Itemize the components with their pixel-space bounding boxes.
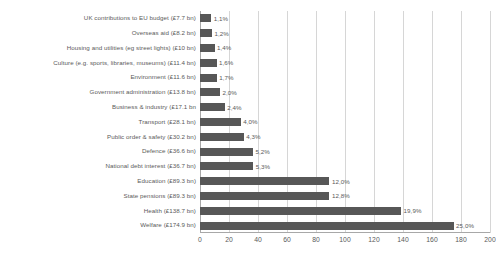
x-tick-label: 80 bbox=[312, 236, 320, 243]
chart-row: Public order & safety (£30.2 bn)4,3% bbox=[0, 129, 490, 144]
x-axis-tick-labels: 020406080100120140160180200 bbox=[200, 236, 490, 248]
category-label: National debt interest (£36.7 bn) bbox=[0, 163, 200, 170]
category-label: Defence (£36.6 bn) bbox=[0, 148, 200, 155]
bar-value-label: 12,8% bbox=[332, 192, 350, 199]
category-label: Overseas aid (£8.2 bn) bbox=[0, 30, 200, 37]
chart-row: National debt interest (£36.7 bn)5,3% bbox=[0, 159, 490, 174]
bar[interactable] bbox=[200, 192, 329, 200]
bar[interactable] bbox=[200, 59, 217, 67]
bar-cell: 12,8% bbox=[200, 189, 490, 204]
category-label: Business & industry (£17.1 bn bbox=[0, 104, 200, 111]
bar-cell: 1,6% bbox=[200, 55, 490, 70]
category-label: Culture (e.g. sports, libraries, museums… bbox=[0, 60, 200, 67]
bar-cell: 1,7% bbox=[200, 70, 490, 85]
bar-cell: 5,3% bbox=[200, 159, 490, 174]
x-tick-label: 160 bbox=[426, 236, 437, 243]
bar-cell: 12,0% bbox=[200, 174, 490, 189]
category-label: UK contributions to EU budget (£7.7 bn) bbox=[0, 15, 200, 22]
bar-value-label: 2,0% bbox=[223, 89, 237, 96]
bar[interactable] bbox=[200, 207, 401, 215]
x-tick-label: 60 bbox=[283, 236, 291, 243]
bar-cell: 4,3% bbox=[200, 129, 490, 144]
bar-cell: 4,0% bbox=[200, 115, 490, 130]
bar-value-label: 4,3% bbox=[246, 133, 260, 140]
bar-cell: 5,2% bbox=[200, 144, 490, 159]
x-tick-label: 180 bbox=[455, 236, 466, 243]
chart-row: Culture (e.g. sports, libraries, museums… bbox=[0, 55, 490, 70]
category-label: Health (£138.7 bn) bbox=[0, 208, 200, 215]
x-tick-label: 100 bbox=[339, 236, 350, 243]
bar-cell: 19,9% bbox=[200, 203, 490, 218]
bar[interactable] bbox=[200, 74, 217, 82]
bar-value-label: 1,1% bbox=[214, 15, 228, 22]
bar-cell: 1,1% bbox=[200, 11, 490, 26]
chart-rows: UK contributions to EU budget (£7.7 bn)1… bbox=[0, 11, 490, 233]
category-label: State pensions (£89.3 bn) bbox=[0, 193, 200, 200]
chart-row: Defence (£36.6 bn)5,2% bbox=[0, 144, 490, 159]
bar-value-label: 1,2% bbox=[214, 30, 228, 37]
x-tick-label: 140 bbox=[397, 236, 408, 243]
bar[interactable] bbox=[200, 103, 225, 111]
chart-row: Overseas aid (£8.2 bn)1,2% bbox=[0, 26, 490, 41]
chart-row: Welfare (£174.9 bn)25,0% bbox=[0, 218, 490, 233]
bar-value-label: 1,4% bbox=[217, 44, 231, 51]
bar[interactable] bbox=[200, 162, 253, 170]
gridline bbox=[490, 11, 491, 233]
bar-cell: 1,4% bbox=[200, 41, 490, 56]
chart-row: Environment (£11.6 bn)1,7% bbox=[0, 70, 490, 85]
bar[interactable] bbox=[200, 222, 454, 230]
chart-row: Government administration (£13.8 bn)2,0% bbox=[0, 85, 490, 100]
bar[interactable] bbox=[200, 29, 212, 37]
bar[interactable] bbox=[200, 44, 215, 52]
chart-caption bbox=[0, 256, 490, 268]
bar-cell: 2,4% bbox=[200, 100, 490, 115]
category-label: Public order & safety (£30.2 bn) bbox=[0, 134, 200, 141]
bar-value-label: 19,9% bbox=[404, 207, 422, 214]
bar-value-label: 5,2% bbox=[256, 148, 270, 155]
x-tick-label: 40 bbox=[254, 236, 262, 243]
chart-row: Education (£89.3 bn)12,0% bbox=[0, 174, 490, 189]
bar-cell: 1,2% bbox=[200, 26, 490, 41]
x-tick-label: 0 bbox=[198, 236, 202, 243]
chart-row: State pensions (£89.3 bn)12,8% bbox=[0, 189, 490, 204]
bar-value-label: 1,6% bbox=[219, 59, 233, 66]
bar[interactable] bbox=[200, 118, 241, 126]
category-label: Education (£89.3 bn) bbox=[0, 178, 200, 185]
bar-value-label: 4,0% bbox=[243, 118, 257, 125]
category-label: Transport (£28.1 bn) bbox=[0, 119, 200, 126]
bar-value-label: 2,4% bbox=[227, 104, 241, 111]
bar-cell: 25,0% bbox=[200, 218, 490, 233]
chart-row: Business & industry (£17.1 bn2,4% bbox=[0, 100, 490, 115]
x-tick-label: 200 bbox=[484, 236, 495, 243]
category-label: Government administration (£13.8 bn) bbox=[0, 89, 200, 96]
chart-row: Housing and utilities (eg street lights)… bbox=[0, 41, 490, 56]
bar[interactable] bbox=[200, 177, 329, 185]
chart-row: UK contributions to EU budget (£7.7 bn)1… bbox=[0, 11, 490, 26]
x-tick-label: 120 bbox=[368, 236, 379, 243]
bar[interactable] bbox=[200, 14, 211, 22]
x-tick-label: 20 bbox=[225, 236, 233, 243]
bar[interactable] bbox=[200, 88, 220, 96]
category-label: Welfare (£174.9 bn) bbox=[0, 222, 200, 229]
chart-row: Transport (£28.1 bn)4,0% bbox=[0, 115, 490, 130]
bar[interactable] bbox=[200, 148, 253, 156]
bar-value-label: 1,7% bbox=[219, 74, 233, 81]
category-label: Housing and utilities (eg street lights)… bbox=[0, 45, 200, 52]
bar[interactable] bbox=[200, 133, 244, 141]
chart-row: Health (£138.7 bn)19,9% bbox=[0, 203, 490, 218]
bar-value-label: 25,0% bbox=[456, 222, 474, 229]
category-label: Environment (£11.6 bn) bbox=[0, 74, 200, 81]
bar-value-label: 12,0% bbox=[332, 178, 350, 185]
bar-value-label: 5,3% bbox=[256, 163, 270, 170]
bar-cell: 2,0% bbox=[200, 85, 490, 100]
